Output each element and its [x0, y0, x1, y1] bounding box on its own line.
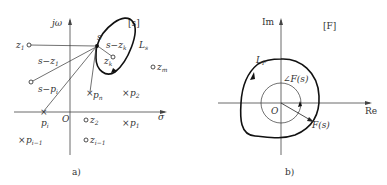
- im-axis-arrow-icon: [279, 18, 283, 25]
- caption-a: a): [72, 167, 81, 177]
- zero-z1-icon: [27, 43, 31, 47]
- caption-b: b): [285, 167, 294, 177]
- origin-label-b: O: [271, 106, 279, 116]
- zero-zi-1-label: zi−1: [89, 135, 106, 146]
- pole-pn-label: pn: [93, 90, 103, 101]
- axis-im-label: Im: [262, 17, 275, 27]
- diagram-canvas: jω σ O [s] Ls s s−z1 s−pi s−zk z1 zk zm …: [0, 0, 387, 185]
- contour-lf-label: LF: [255, 55, 267, 66]
- zero-zk-icon: [111, 55, 115, 59]
- vector-s-z1: [29, 45, 96, 46]
- pole-p2-label: p2: [130, 88, 140, 99]
- re-axis-arrow-icon: [365, 101, 372, 105]
- pole-pi-icon: ×: [40, 107, 48, 117]
- zero-z2-icon: [84, 118, 88, 122]
- pole-pi-1-label: pi−1: [26, 135, 43, 146]
- zero-zi-1-icon: [84, 138, 88, 142]
- panel-a: jω σ O [s] Ls s s−z1 s−pi s−zk z1 zk zm …: [14, 18, 168, 177]
- pole-p1-icon: ×: [122, 118, 130, 128]
- contour-lf-arrow-icon: [250, 72, 255, 80]
- pole-p1-label: p1: [130, 118, 140, 129]
- axis-y-label: jω: [50, 18, 63, 28]
- contour-label: Ls: [138, 40, 148, 51]
- axis-re-label: Re: [365, 106, 377, 116]
- pole-p2-icon: ×: [122, 88, 130, 98]
- vector-fs: [281, 103, 312, 121]
- axis-x-label: σ: [158, 112, 165, 122]
- contour-lf: [241, 59, 319, 138]
- zero-zm-label: zm: [156, 62, 168, 73]
- panel-b: Im Re O [F] LF ∠F(s) F(s) b): [218, 17, 377, 177]
- label-s-minus-pi: s−pi: [38, 84, 58, 95]
- zero-zm-icon: [151, 65, 155, 69]
- vector-s-pn: [90, 48, 96, 92]
- origin-label: O: [62, 114, 70, 124]
- angle-arrow-icon: [298, 101, 302, 107]
- zero-extra-icon: [29, 80, 33, 84]
- zero-z1-label: z1: [15, 40, 25, 51]
- pole-pi-label: pi: [41, 118, 49, 129]
- vector-fs-label: F(s): [311, 120, 330, 130]
- zero-z2-label: z2: [89, 115, 99, 126]
- imag-axis-arrow-icon: [68, 18, 72, 25]
- point-s-label: s: [97, 32, 102, 42]
- plane-label-b: [F]: [323, 21, 336, 31]
- pole-pi-1-icon: ×: [18, 135, 26, 145]
- angle-label: ∠F(s): [283, 74, 309, 84]
- label-s-minus-zk: s−zk: [106, 40, 127, 51]
- label-s-minus-z1: s−z1: [38, 56, 59, 67]
